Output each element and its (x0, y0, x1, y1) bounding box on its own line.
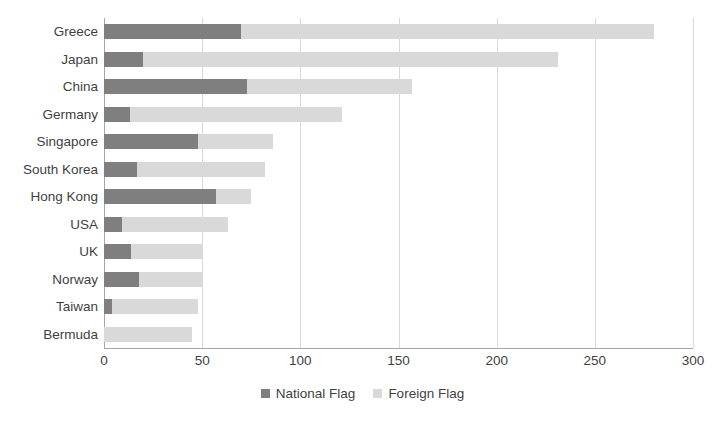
x-tick-label: 50 (195, 352, 210, 370)
bar-segment-national-flag[interactable] (104, 272, 139, 287)
x-tick-label: 150 (387, 352, 410, 370)
x-tick-label: 0 (100, 352, 108, 370)
category-label: Greece (0, 24, 98, 39)
bar-rows (104, 18, 693, 348)
bar-row[interactable] (104, 24, 654, 39)
category-label: USA (0, 217, 98, 232)
legend-item[interactable]: National Flag (261, 386, 356, 401)
bar-segment-foreign-flag[interactable] (139, 272, 202, 287)
x-tick-label: 250 (584, 352, 607, 370)
category-label: South Korea (0, 162, 98, 177)
bar-segment-national-flag[interactable] (104, 162, 137, 177)
bar-segment-foreign-flag[interactable] (216, 189, 251, 204)
bar-segment-national-flag[interactable] (104, 52, 143, 67)
bar-segment-foreign-flag[interactable] (130, 107, 342, 122)
bar-segment-foreign-flag[interactable] (143, 52, 557, 67)
chart-legend: National FlagForeign Flag (0, 386, 725, 401)
x-axis-line (104, 348, 693, 349)
bar-row[interactable] (104, 272, 202, 287)
category-label: Hong Kong (0, 189, 98, 204)
category-axis-labels: GreeceJapanChinaGermanySingaporeSouth Ko… (0, 18, 98, 348)
category-label: Bermuda (0, 327, 98, 342)
bar-row[interactable] (104, 327, 192, 342)
bar-row[interactable] (104, 134, 273, 149)
bar-segment-national-flag[interactable] (104, 107, 130, 122)
bar-segment-national-flag[interactable] (104, 217, 122, 232)
legend-item[interactable]: Foreign Flag (373, 386, 464, 401)
bar-segment-foreign-flag[interactable] (198, 134, 273, 149)
plot-area (104, 18, 693, 348)
stacked-bar-chart: GreeceJapanChinaGermanySingaporeSouth Ko… (0, 0, 725, 421)
gridline-300 (693, 18, 694, 348)
category-label: Japan (0, 52, 98, 67)
category-label: UK (0, 244, 98, 259)
category-label: Taiwan (0, 299, 98, 314)
value-axis-labels: 050100150200250300 (0, 352, 725, 374)
bar-row[interactable] (104, 79, 412, 94)
legend-label: Foreign Flag (388, 386, 464, 401)
bar-segment-foreign-flag[interactable] (137, 162, 265, 177)
legend-label: National Flag (276, 386, 356, 401)
bar-segment-national-flag[interactable] (104, 79, 247, 94)
bar-row[interactable] (104, 162, 265, 177)
bar-row[interactable] (104, 107, 342, 122)
bar-row[interactable] (104, 217, 228, 232)
bar-segment-national-flag[interactable] (104, 244, 131, 259)
x-tick-label: 200 (485, 352, 508, 370)
bar-row[interactable] (104, 52, 558, 67)
x-tick-label: 100 (289, 352, 312, 370)
bar-row[interactable] (104, 299, 198, 314)
bar-segment-foreign-flag[interactable] (131, 244, 202, 259)
category-label: Germany (0, 107, 98, 122)
bar-row[interactable] (104, 189, 251, 204)
category-label: Norway (0, 272, 98, 287)
national-flag-swatch (261, 389, 270, 398)
category-label: Singapore (0, 134, 98, 149)
bar-segment-national-flag[interactable] (104, 189, 216, 204)
bar-segment-foreign-flag[interactable] (247, 79, 412, 94)
category-label: China (0, 79, 98, 94)
bar-segment-national-flag[interactable] (104, 24, 241, 39)
bar-segment-foreign-flag[interactable] (122, 217, 228, 232)
foreign-flag-swatch (373, 389, 382, 398)
bar-segment-national-flag[interactable] (104, 299, 112, 314)
bar-segment-national-flag[interactable] (104, 134, 198, 149)
bar-segment-foreign-flag[interactable] (241, 24, 653, 39)
bar-segment-foreign-flag[interactable] (112, 299, 198, 314)
bar-segment-foreign-flag[interactable] (104, 327, 192, 342)
x-tick-label: 300 (682, 352, 705, 370)
bar-row[interactable] (104, 244, 202, 259)
